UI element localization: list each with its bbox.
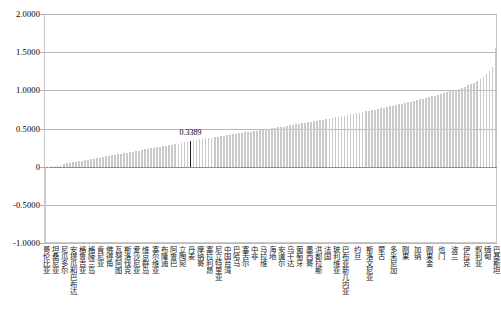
bar [69,163,71,167]
bar [319,120,321,167]
bar [283,127,285,167]
bar [476,81,478,166]
x-axis-tick-label: 蒙古 [377,245,385,259]
x-axis-tick-label: 法国 [323,245,331,259]
bar [114,155,116,167]
x-axis-tick-label: 塞尔维亚 [150,245,158,273]
gridline [44,243,497,244]
x-axis-tick-label: 波兰 [449,245,457,259]
bar [84,160,86,166]
bar [325,119,327,167]
bar [434,96,436,167]
bar [196,140,198,167]
x-axis-tick-label: 爱沙尼亚 [132,245,140,273]
bar [353,114,355,167]
bar [159,147,161,167]
bar [226,135,228,166]
bar [371,110,373,166]
bar-series: 0.3389 [44,14,497,243]
x-axis-tick-label: 中非 [250,245,258,259]
bar [162,146,164,166]
x-axis-tick-label: 哥伦比亚 [42,245,50,273]
bar [63,164,65,167]
bar [467,85,469,166]
bar [464,87,466,167]
x-axis-tick-label: 巴布亚新几内亚 [341,245,349,294]
bar [407,102,409,166]
bar [383,108,385,167]
bar [102,157,104,167]
bar [452,90,454,166]
bar [223,136,225,167]
bar [365,111,367,166]
bar [238,133,240,166]
bar [117,154,119,166]
x-axis-tick-label: 巴哈马 [232,245,240,266]
bar [295,124,297,166]
bar [495,48,497,166]
bar [344,116,346,167]
x-axis-tick-label: 伊拉克 [461,245,469,266]
x-axis-tick-label: 约旦 [353,245,361,259]
bar [78,161,80,166]
bar [422,99,424,167]
bar [338,117,340,167]
bar [480,79,482,166]
bar [51,166,53,167]
x-axis-tick-label: 乌干达 [286,245,294,266]
bar [250,132,252,167]
bar [220,136,222,167]
x-axis-tick-label: 塞舌尔 [241,245,249,266]
bar [174,144,176,167]
bar [171,145,173,167]
bar [123,153,125,166]
x-axis-tick-label: 海地 [268,245,276,259]
x-axis-tick-label: 玻利维亚 [332,245,340,273]
bar [395,105,397,167]
bar [289,125,291,166]
bar [316,121,318,167]
x-axis-tick-label: 格陵兰岛 [87,245,95,273]
bar [401,104,403,167]
bar [398,104,400,166]
bar [404,103,406,167]
bar [262,130,264,167]
bar [389,106,391,166]
bar [87,160,89,167]
bar [392,106,394,167]
bar [54,166,56,167]
bar [440,94,442,167]
x-axis-tick-label: 立陶宛 [178,245,186,266]
x-axis-tick-label: 阿鲁巴 [169,245,177,266]
bar [268,129,270,167]
bar [265,129,267,166]
bar [202,139,204,167]
bar [184,142,186,166]
x-axis-tick-label: 维京群岛 [141,245,149,273]
x-axis-tick-label: 斯洛文尼亚 [365,245,373,280]
x-axis-tick-label: 格鲁吉亚 [78,245,86,273]
y-axis-tick-label: 0.5000 [16,124,40,134]
x-axis-tick-label: 加纳 [413,245,421,259]
x-axis-tick-label: 洪都拉斯 [314,245,322,273]
bar-value-label: 0.3389 [179,128,201,137]
y-axis-tick-label: -1.0000 [13,238,40,248]
bar [217,137,219,167]
x-axis-tick-label: 斯洛伐克 [123,245,131,273]
x-axis-tick-label: 马拉维 [259,245,267,266]
x-axis-tick-label: 巴基斯坦 [492,245,500,273]
bar [356,113,358,166]
bar [241,133,243,167]
bar [72,162,74,166]
bar [141,150,143,167]
x-axis-tick-label: 丹麦 [187,245,195,259]
bar [298,124,300,167]
bar [259,130,261,166]
bar [274,128,276,167]
bar [181,143,183,167]
bar [138,151,140,167]
bar [313,121,315,166]
bar [310,122,312,167]
bar [304,123,306,167]
bar [244,132,246,166]
